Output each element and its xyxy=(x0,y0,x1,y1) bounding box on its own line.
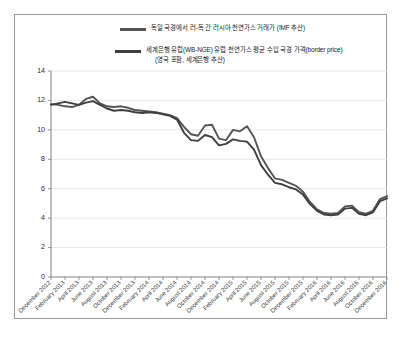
y-tick-label: 12 xyxy=(37,96,45,103)
y-tick-label: 2 xyxy=(41,243,45,250)
grid-lines xyxy=(51,71,387,248)
x-axis-ticks: December 2012February 2013April 2013June… xyxy=(17,277,388,314)
y-tick-label: 6 xyxy=(41,185,45,192)
chart-plot: 02468101214 December 2012February 2013Ap… xyxy=(15,15,388,320)
y-tick-label: 4 xyxy=(41,214,45,221)
series-line-imf-russian-gas-german-border xyxy=(51,97,387,214)
data-series xyxy=(51,97,387,215)
series-line-worldbank-europe-border-price xyxy=(51,101,387,215)
y-axis-ticks: 02468101214 xyxy=(37,67,51,280)
axis-lines xyxy=(51,71,387,277)
chart-figure-frame: 독일 국경에서 러-독 간 러시아 천연가스 거래가 (IMF 추산) 세계은행… xyxy=(14,14,387,319)
y-tick-label: 14 xyxy=(37,67,45,74)
y-tick-label: 10 xyxy=(37,126,45,133)
y-tick-label: 8 xyxy=(41,155,45,162)
y-tick-label: 0 xyxy=(41,273,45,280)
